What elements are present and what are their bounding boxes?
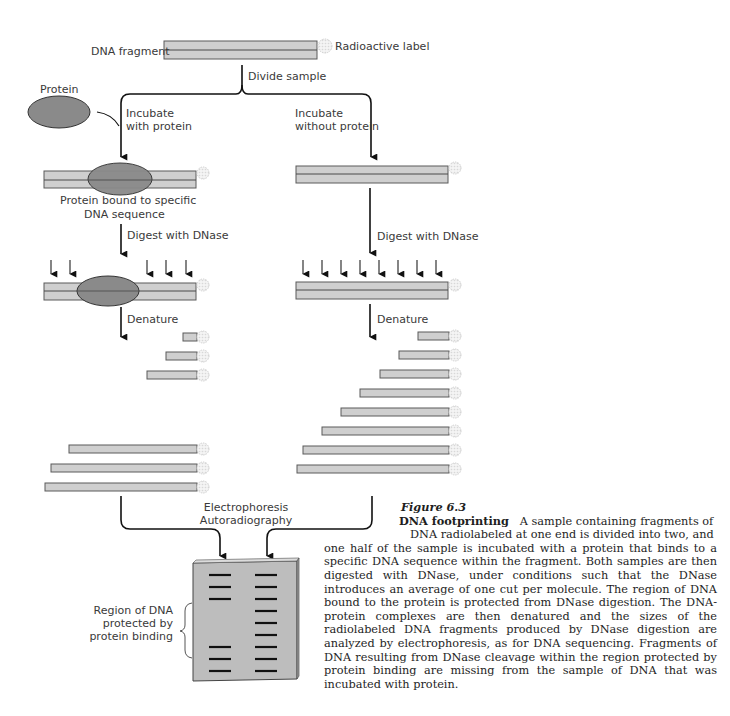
dna-fragment-top — [164, 39, 332, 59]
label-denature-left: Denature — [127, 313, 179, 326]
dna-fragment — [399, 349, 461, 361]
dna-fragment — [297, 463, 461, 475]
label-protein-bound-1: Protein bound to specific — [60, 194, 196, 207]
dna-fragment — [147, 369, 209, 381]
caption-line2: DNA radiolabeled at one end is divided i… — [401, 528, 717, 542]
radioactive-label-icon — [197, 350, 209, 362]
label-radioactive: Radioactive label — [335, 40, 429, 53]
dna-protein-complex — [44, 163, 209, 195]
label-incubate-without-1: Incubate — [295, 107, 343, 120]
radioactive-label-icon — [197, 167, 209, 179]
label-region-2: protected by — [103, 617, 174, 630]
dna-fragment — [183, 331, 209, 343]
region-brace — [180, 603, 192, 658]
dna-fragment — [322, 425, 461, 437]
figure-number: Figure 6.3 — [401, 501, 717, 515]
label-protein-bound-2: DNA sequence — [84, 208, 165, 221]
radioactive-label-icon — [449, 425, 461, 437]
label-protein: Protein — [40, 83, 79, 96]
radioactive-label-icon — [197, 331, 209, 343]
radioactive-label-icon — [449, 349, 461, 361]
dnase-cut-arrows-right — [303, 260, 436, 274]
label-denature-right: Denature — [377, 313, 429, 326]
dna-fragment — [303, 444, 461, 456]
label-divide-sample: Divide sample — [248, 70, 327, 83]
dna-fragment — [418, 330, 461, 342]
radioactive-label-icon — [197, 443, 209, 455]
radioactive-label-icon — [449, 330, 461, 342]
dna-fragment — [69, 443, 209, 455]
radioactive-label-icon — [197, 462, 209, 474]
left-fragments — [45, 331, 209, 493]
label-region-3: protein binding — [89, 630, 173, 643]
radioactive-label-icon — [449, 444, 461, 456]
radioactive-label-icon — [449, 406, 461, 418]
dna-fragment-right — [296, 162, 461, 183]
dna-fragment — [380, 368, 461, 380]
label-region-1: Region of DNA — [94, 604, 174, 617]
protein-join-line — [97, 112, 119, 126]
dna-digested-right — [296, 279, 461, 299]
radioactive-label-icon — [449, 463, 461, 475]
label-incubate-with-2: with protein — [126, 120, 192, 133]
figure-caption: Figure 6.3 DNA footprinting A sample con… — [401, 501, 717, 691]
radioactive-label-icon — [449, 368, 461, 380]
dna-fragment — [360, 387, 461, 399]
dna-fragment — [51, 462, 209, 474]
right-fragments — [297, 330, 461, 475]
label-incubate-with-1: Incubate — [126, 107, 174, 120]
label-digest-right: Digest with DNase — [377, 230, 479, 243]
dna-fragment — [166, 350, 209, 362]
protein-icon — [28, 96, 90, 128]
radioactive-label-icon — [449, 387, 461, 399]
caption-body: one half of the sample is incubated with… — [324, 542, 717, 692]
dna-fragment — [45, 481, 209, 493]
caption-line1: A sample containing fragments of — [520, 515, 714, 528]
label-autoradiography: Autoradiography — [200, 514, 293, 527]
dnase-cut-arrows-left — [51, 260, 186, 274]
label-electrophoresis: Electrophoresis — [204, 501, 289, 514]
caption-title: DNA footprinting — [399, 514, 509, 528]
label-dna-fragment: DNA fragment — [91, 45, 170, 58]
label-digest-left: Digest with DNase — [127, 229, 229, 242]
radioactive-label-icon — [197, 481, 209, 493]
dna-protein-digested — [44, 276, 209, 306]
label-incubate-without-2: without protein — [295, 120, 379, 133]
radioactive-label-icon — [197, 369, 209, 381]
dna-fragment — [341, 406, 461, 418]
gel — [193, 558, 299, 681]
radioactive-label-icon — [318, 39, 332, 53]
